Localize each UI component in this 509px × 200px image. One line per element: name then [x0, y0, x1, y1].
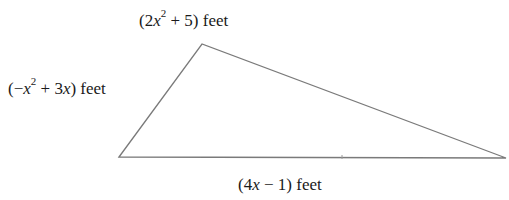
base-label-suffix: − 1) feet: [260, 175, 322, 194]
top-label-prefix: (2: [139, 11, 153, 30]
base-label-variable: x: [252, 175, 260, 194]
left-label-variable: x: [23, 79, 31, 98]
left-side-label: (−x2 + 3x) feet: [8, 80, 106, 97]
left-label-suffix: ) feet: [70, 79, 105, 98]
left-label-middle: + 3: [36, 79, 63, 98]
base-side-label: (4x − 1) feet: [238, 176, 322, 193]
top-side-label: (2x2 + 5) feet: [139, 12, 228, 29]
triangle: [119, 44, 506, 158]
triangle-diagram: [0, 0, 509, 200]
left-label-exponent: 2: [31, 75, 37, 87]
base-label-prefix: (4: [238, 175, 252, 194]
top-label-exponent: 2: [161, 7, 167, 19]
left-label-prefix: (−: [8, 79, 23, 98]
top-label-suffix: + 5) feet: [166, 11, 228, 30]
top-label-variable: x: [153, 11, 161, 30]
